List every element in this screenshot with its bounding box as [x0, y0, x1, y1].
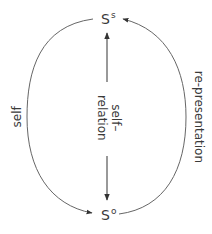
node-s-s: Ss	[101, 11, 116, 26]
node-s-o-sup: o	[111, 206, 117, 216]
self-relation-label: self– relation	[94, 89, 122, 147]
re-presentation-arc	[119, 19, 186, 214]
node-s-o: So	[101, 207, 116, 222]
self-relation-line1: self–	[108, 89, 122, 147]
node-s-o-base: S	[101, 207, 110, 223]
re-presentation-label: re-presentation	[191, 69, 205, 165]
self-label: self	[11, 100, 25, 134]
self-arc	[27, 19, 93, 213]
node-s-s-sup: s	[111, 10, 116, 20]
node-s-s-base: S	[101, 11, 110, 27]
self-relation-line2: relation	[94, 89, 108, 147]
